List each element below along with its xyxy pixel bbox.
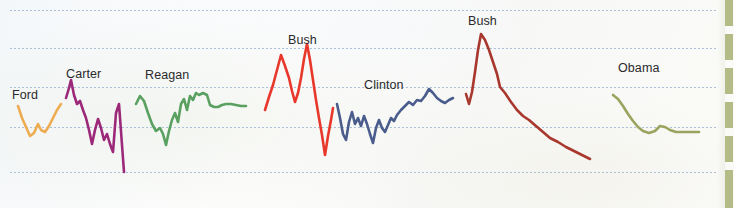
series-label-bush-3: Bush: [288, 33, 317, 47]
series-label-ford-0: Ford: [12, 88, 38, 102]
series-line-carter-1: [66, 80, 124, 172]
edge-marker-segment-2: [725, 68, 733, 94]
presidential-unemployment-chart: FordCarterReaganBushClintonBushObama: [0, 0, 734, 208]
plot-area: [0, 0, 734, 208]
series-line-ford-0: [18, 104, 61, 136]
edge-marker-segment-1: [725, 34, 733, 60]
series-line-obama-6: [613, 95, 699, 133]
edge-marker-segment-3: [725, 102, 733, 128]
series-label-reagan-2: Reagan: [145, 68, 189, 82]
series-line-bush-3: [265, 44, 333, 155]
edge-marker-segment-0: [725, 0, 733, 26]
page-edge-marker: [725, 0, 734, 208]
edge-marker-segment-4: [725, 136, 733, 162]
series-label-bush-5: Bush: [468, 14, 497, 28]
series-label-clinton-4: Clinton: [364, 78, 404, 92]
page-edge-shadow: [717, 0, 725, 208]
series-label-carter-1: Carter: [66, 67, 101, 81]
series-line-reagan-2: [136, 93, 246, 145]
edge-marker-segment-6: [725, 196, 733, 208]
series-line-clinton-4: [337, 89, 453, 143]
series-label-obama-6: Obama: [618, 61, 660, 75]
series-line-bush-5: [466, 34, 590, 159]
edge-marker-segment-5: [725, 170, 733, 196]
